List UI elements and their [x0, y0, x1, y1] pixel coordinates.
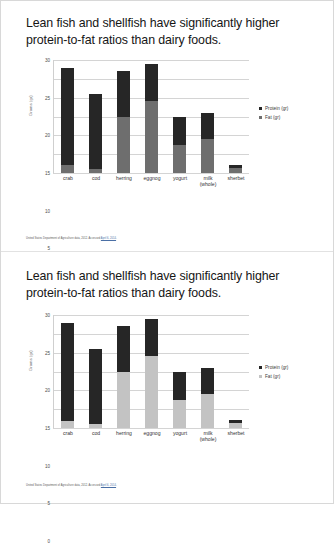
bar-segment-fat: [89, 169, 102, 173]
x-axis-tick-label: milk(whole): [194, 175, 222, 188]
x-axis-tick-label: herring: [110, 175, 138, 188]
bar-column: [193, 315, 221, 428]
x-axis-tick-label: yogurt: [166, 175, 194, 188]
gridline: 0: [53, 428, 249, 429]
bar-segment-protein: [117, 71, 130, 116]
slide-1-title: Lean fish and shellfish have significant…: [1, 1, 333, 48]
bar-segment-fat: [229, 168, 242, 173]
stacked-bar[interactable]: [145, 64, 158, 173]
bar-segment-protein: [61, 323, 74, 422]
bar-segment-fat: [61, 421, 74, 428]
bar-column: [54, 60, 82, 173]
legend-swatch-protein-icon: [259, 107, 262, 110]
bar-segment-protein: [61, 68, 74, 166]
bar-column: [110, 60, 138, 173]
stacked-bar[interactable]: [117, 71, 130, 173]
stacked-bar[interactable]: [145, 319, 158, 428]
y-axis-tick-label: 30: [45, 313, 50, 318]
legend-swatch-protein-icon: [259, 366, 262, 369]
slide-1-chart: Grams (gr) 051015202530 crabcodherringeg…: [1, 54, 333, 204]
bar-column: [82, 315, 110, 428]
stacked-bar[interactable]: [173, 117, 186, 174]
bar-segment-protein: [201, 368, 214, 394]
bar-segment-fat: [201, 139, 214, 173]
chart-legend: Protein (gr) Fat (gr): [259, 106, 288, 124]
legend-item-fat: Fat (gr): [259, 374, 288, 379]
source-link[interactable]: April 6, 2014: [101, 484, 116, 487]
slide-2: Lean fish and shellfish have significant…: [1, 251, 333, 503]
stacked-bar[interactable]: [229, 420, 242, 428]
x-axis-labels: crabcodherringeggnogyogurtmilk(whole)she…: [54, 175, 250, 188]
legend-item-fat: Fat (gr): [259, 115, 288, 120]
stacked-bar[interactable]: [117, 326, 130, 428]
bar-column: [110, 315, 138, 428]
x-axis-tick-label: crab: [54, 430, 82, 443]
bar-segment-protein: [89, 94, 102, 169]
bar-segment-fat: [117, 372, 130, 429]
bar-column: [165, 60, 193, 173]
stacked-bar[interactable]: [61, 323, 74, 428]
y-axis-tick-label: 15: [45, 171, 50, 176]
stacked-bar[interactable]: [89, 349, 102, 428]
slide-2-title: Lean fish and shellfish have significant…: [1, 252, 333, 301]
x-axis-labels: crabcodherringeggnogyogurtmilk(whole)she…: [54, 430, 250, 443]
y-axis-tick-label: 0: [47, 539, 50, 544]
x-axis-tick-label: cod: [82, 175, 110, 188]
bar-segment-fat: [173, 145, 186, 173]
y-axis-label: Grams (gr): [28, 95, 33, 116]
bar-segment-fat: [201, 394, 214, 428]
chart-legend: Protein (gr) Fat (gr): [259, 365, 288, 383]
x-axis-tick-label: yogurt: [166, 430, 194, 443]
bar-segment-fat: [117, 117, 130, 174]
y-axis-label: Grams (gr): [28, 350, 33, 371]
bar-segment-protein: [145, 64, 158, 102]
bar-segment-fat: [229, 423, 242, 428]
x-axis-tick-label: crab: [54, 175, 82, 188]
plot-area: 051015202530: [53, 60, 249, 173]
legend-label-fat: Fat (gr): [265, 115, 280, 120]
bars-container: [54, 315, 249, 428]
y-axis-tick-label: 10: [45, 463, 50, 468]
legend-label-protein: Protein (gr): [265, 106, 288, 111]
bar-column: [165, 315, 193, 428]
bar-column: [138, 60, 166, 173]
slide-2-source: United States Department of Agriculture …: [26, 484, 117, 487]
stacked-bar[interactable]: [201, 113, 214, 173]
x-axis-tick-label: eggnog: [138, 430, 166, 443]
x-axis-tick-label: sherbet: [222, 175, 250, 188]
bar-column: [221, 315, 249, 428]
stacked-bar[interactable]: [89, 94, 102, 173]
bar-column: [221, 60, 249, 173]
stacked-bar[interactable]: [61, 68, 74, 173]
bar-segment-protein: [201, 113, 214, 139]
legend-swatch-fat-icon: [259, 116, 262, 119]
bar-segment-protein: [117, 326, 130, 371]
bar-column: [82, 60, 110, 173]
slide-1-source: United States Department of Agriculture …: [26, 237, 117, 240]
bar-column: [193, 60, 221, 173]
legend-item-protein: Protein (gr): [259, 106, 288, 111]
stacked-bar[interactable]: [201, 368, 214, 428]
plot-area: 051015202530: [53, 315, 249, 428]
bar-column: [54, 315, 82, 428]
stacked-bar[interactable]: [173, 372, 186, 429]
bar-segment-fat: [145, 101, 158, 173]
source-link[interactable]: April 6, 2014: [101, 237, 116, 240]
source-suffix: .: [116, 237, 117, 240]
x-axis-tick-label: herring: [110, 430, 138, 443]
x-axis-tick-label: milk(whole): [194, 430, 222, 443]
gridline: 0: [53, 173, 249, 174]
stacked-bar[interactable]: [229, 165, 242, 173]
y-axis-tick-label: 5: [47, 501, 50, 506]
bar-segment-protein: [173, 372, 186, 400]
y-axis-tick-label: 20: [45, 133, 50, 138]
legend-label-protein: Protein (gr): [265, 365, 288, 370]
source-text: United States Department of Agriculture …: [26, 484, 101, 487]
y-axis-tick-label: 10: [45, 208, 50, 213]
bars-container: [54, 60, 249, 173]
bar-segment-fat: [61, 165, 74, 173]
bar-segment-fat: [89, 424, 102, 428]
bar-column: [138, 315, 166, 428]
legend-label-fat: Fat (gr): [265, 374, 280, 379]
